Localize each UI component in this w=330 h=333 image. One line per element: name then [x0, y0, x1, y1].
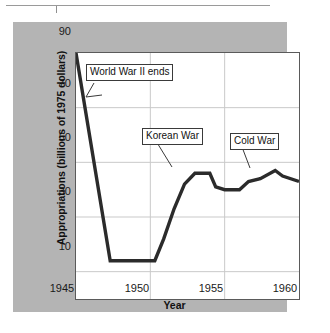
leader-cold — [242, 147, 250, 168]
x-tick-label-1960: 1960 — [265, 283, 305, 294]
x-tick-label-1950: 1950 — [117, 283, 157, 294]
y-axis-title: Appropriations (billions of 1975 dollars… — [55, 23, 67, 273]
data-line — [76, 53, 299, 261]
chart-canvas — [76, 53, 299, 299]
grid-vertical — [150, 53, 224, 299]
leader-ww2 — [86, 83, 102, 97]
leader-korea — [156, 141, 172, 167]
x-tick-label-1955: 1955 — [191, 283, 231, 294]
top-divider-rule — [6, 5, 270, 6]
x-axis-tick-labels: 1945 1950 1955 1960 — [0, 283, 330, 299]
top-divider-tick — [56, 6, 57, 13]
annotation-korean-war: Korean War — [142, 128, 203, 145]
annotation-cold-war: Cold War — [230, 133, 279, 150]
figure-panel: 90 70 50 30 10 Appropriations (billions … — [13, 22, 287, 312]
x-axis-title: Year — [62, 299, 287, 311]
annotation-world-war-ii-ends: World War II ends — [86, 64, 173, 81]
plot-area: World War II ends Korean War Cold War — [75, 52, 300, 300]
x-tick-label-1945: 1945 — [42, 283, 82, 294]
annotation-leaders — [86, 83, 250, 168]
